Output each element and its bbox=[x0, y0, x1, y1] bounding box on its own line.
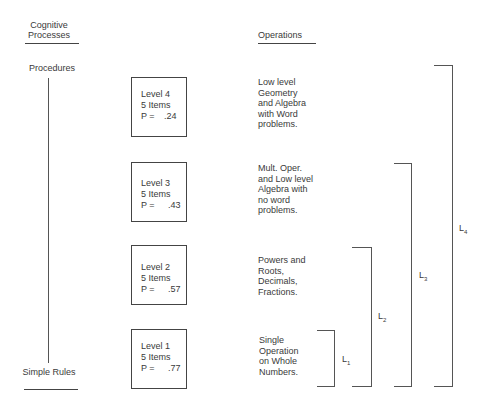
bracket-l1-top bbox=[317, 330, 334, 331]
bracket-l1-bottom bbox=[317, 386, 334, 387]
axis-line bbox=[48, 78, 49, 363]
level-items: 5 Items bbox=[141, 352, 171, 363]
level-p-value: .57 bbox=[168, 284, 181, 295]
level-name: Level 4 bbox=[141, 89, 170, 100]
level-box-4: Level 4 5 Items P = .24 bbox=[131, 77, 187, 137]
bracket-l3-bottom bbox=[394, 386, 411, 387]
level-p-label: P = bbox=[141, 111, 155, 122]
header-underline-right bbox=[258, 43, 316, 44]
level-items: 5 Items bbox=[141, 189, 171, 200]
axis-bottom-label: Simple Rules bbox=[20, 367, 78, 377]
axis-bottom-underline bbox=[24, 389, 78, 390]
bracket-l3-label: L3 bbox=[419, 270, 427, 282]
bracket-l1-label: L1 bbox=[342, 354, 350, 366]
level-items: 5 Items bbox=[141, 100, 171, 111]
header-cognitive-processes: Cognitive Processes bbox=[20, 20, 78, 40]
bracket-l2-top bbox=[352, 247, 371, 248]
level-p-label: P = bbox=[141, 200, 155, 211]
level-box-1: Level 1 5 Items P = .77 bbox=[131, 329, 187, 389]
level-box-3: Level 3 5 Items P = .43 bbox=[131, 162, 187, 222]
bracket-l3-top bbox=[394, 163, 411, 164]
operations-level-4: Low level Geometry and Algebra with Word… bbox=[258, 77, 306, 130]
level-name: Level 3 bbox=[141, 178, 170, 189]
bracket-l4-spine bbox=[452, 65, 453, 387]
bracket-l2-bottom bbox=[352, 386, 371, 387]
bracket-l2-spine bbox=[371, 247, 372, 387]
bracket-l4-top bbox=[434, 65, 452, 66]
bracket-l2-label: L2 bbox=[378, 311, 386, 323]
bracket-l1-spine bbox=[334, 330, 335, 387]
header-underline-left bbox=[25, 43, 79, 44]
bracket-l3-spine bbox=[411, 163, 412, 387]
level-p-value: .43 bbox=[168, 200, 181, 211]
bracket-l4-bottom bbox=[434, 386, 452, 387]
level-p-value: .77 bbox=[168, 363, 181, 374]
level-name: Level 1 bbox=[141, 341, 170, 352]
level-items: 5 Items bbox=[141, 273, 171, 284]
axis-top-label: Procedures bbox=[29, 63, 75, 73]
level-name: Level 2 bbox=[141, 262, 170, 273]
level-p-label: P = bbox=[141, 284, 155, 295]
level-p-label: P = bbox=[141, 363, 155, 374]
header-operations: Operations bbox=[258, 30, 302, 40]
operations-level-3: Mult. Oper. and Low level Algebra with n… bbox=[258, 163, 313, 216]
operations-level-1: Single Operation on Whole Numbers. bbox=[259, 335, 299, 377]
level-p-value: .24 bbox=[164, 111, 177, 122]
operations-level-2: Powers and Roots, Decimals, Fractions. bbox=[258, 255, 306, 297]
level-box-2: Level 2 5 Items P = .57 bbox=[131, 245, 187, 305]
bracket-l4-label: L4 bbox=[459, 223, 467, 235]
